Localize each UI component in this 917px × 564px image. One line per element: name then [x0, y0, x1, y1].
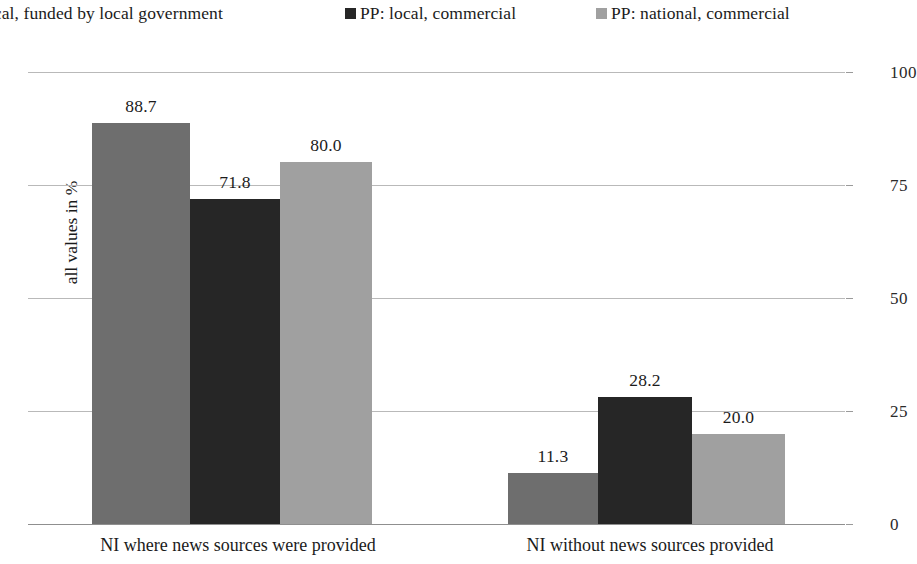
bar-value-label-g1-s2: 20.0 — [692, 408, 785, 426]
bar-g0-s1 — [190, 199, 280, 524]
legend-swatch-icon-2 — [596, 8, 607, 19]
bar-g0-s2 — [280, 162, 372, 524]
y-tick-mark-0 — [846, 524, 853, 525]
legend-label-2: PP: national, commercial — [611, 2, 790, 24]
legend-swatch-icon-1 — [345, 8, 356, 19]
plot-area: 1007550250 88.771.880.011.328.220.0 — [28, 72, 845, 524]
gridline-0 — [28, 524, 845, 525]
y-tick-label-50: 50 — [890, 290, 908, 307]
legend-label-1: PP: local, commercial — [360, 2, 516, 24]
bar-g1-s1 — [598, 397, 692, 524]
legend-item-local-funded-by-local-government: local, funded by local government — [0, 2, 223, 24]
bar-value-label-g1-s1: 28.2 — [598, 371, 692, 389]
y-tick-mark-50 — [846, 298, 853, 299]
gridline-100 — [28, 72, 845, 73]
x-axis-category-label-1: NI without news sources provided — [440, 534, 860, 556]
y-tick-label-100: 100 — [890, 64, 917, 81]
x-axis-category-label-0: NI where news sources were provided — [28, 534, 448, 556]
y-tick-label-0: 0 — [890, 516, 899, 533]
chart-legend: local, funded by local government PP: lo… — [0, 0, 895, 30]
legend-item-pp-local-commercial: PP: local, commercial — [345, 2, 516, 24]
legend-item-pp-national-commercial: PP: national, commercial — [596, 2, 790, 24]
bar-g0-s0 — [92, 123, 190, 524]
bar-g1-s0 — [508, 473, 598, 524]
bar-g1-s2 — [692, 434, 785, 524]
y-tick-mark-75 — [846, 185, 853, 186]
bar-value-label-g0-s1: 71.8 — [190, 173, 280, 191]
bar-value-label-g0-s2: 80.0 — [280, 136, 372, 154]
legend-label-0: local, funded by local government — [0, 2, 223, 24]
y-tick-label-75: 75 — [890, 177, 908, 194]
y-tick-mark-25 — [846, 411, 853, 412]
bar-value-label-g1-s0: 11.3 — [508, 447, 598, 465]
y-tick-label-25: 25 — [890, 403, 908, 420]
y-tick-mark-100 — [846, 72, 853, 73]
bar-value-label-g0-s0: 88.7 — [92, 97, 190, 115]
